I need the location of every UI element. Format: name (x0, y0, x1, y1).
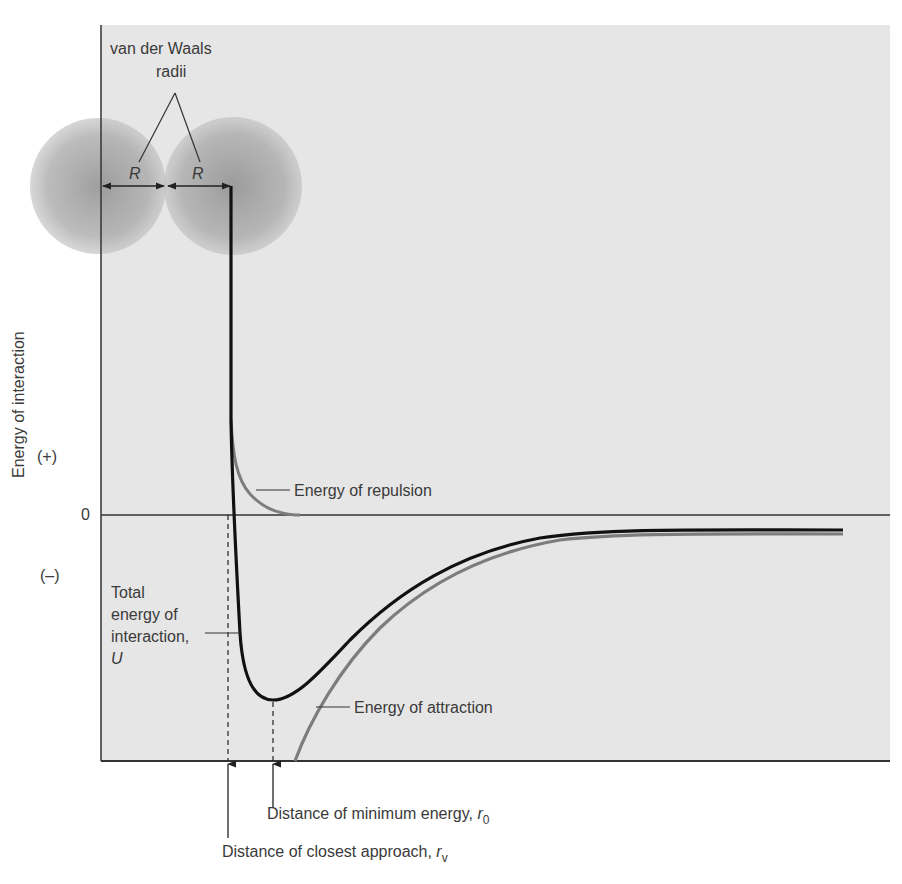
radius-label-right: R (192, 164, 204, 184)
y-tick-negative: (–) (40, 567, 60, 585)
min-energy-label: Distance of minimum energy, r0 (267, 804, 489, 825)
y-axis-label: Energy of interaction (10, 331, 28, 478)
min-energy-symbol: r (477, 805, 482, 822)
min-energy-subscript: 0 (483, 813, 490, 827)
total-label-line2: energy of (111, 604, 189, 626)
total-energy-label: Total energy of interaction, U (111, 582, 189, 670)
vdw-label-line1: van der Waals (110, 39, 212, 59)
diagram-canvas (0, 0, 902, 884)
radius-label-left: R (129, 164, 141, 184)
total-label-symbol: U (111, 648, 189, 670)
closest-approach-symbol: r (436, 843, 441, 860)
energy-diagram: Energy of interaction (+) 0 (–) van der … (0, 0, 902, 884)
min-energy-text: Distance of minimum energy, (267, 805, 473, 822)
repulsion-label: Energy of repulsion (294, 481, 432, 501)
attraction-label: Energy of attraction (354, 698, 493, 718)
closest-approach-subscript: v (442, 851, 448, 865)
y-tick-zero: 0 (81, 506, 90, 524)
total-label-line1: Total (111, 582, 189, 604)
y-tick-positive: (+) (37, 448, 57, 466)
closest-approach-text: Distance of closest approach, (222, 843, 432, 860)
vdw-label-line2: radii (156, 62, 186, 82)
total-label-line3: interaction, (111, 626, 189, 648)
closest-approach-label: Distance of closest approach, rv (222, 842, 448, 863)
